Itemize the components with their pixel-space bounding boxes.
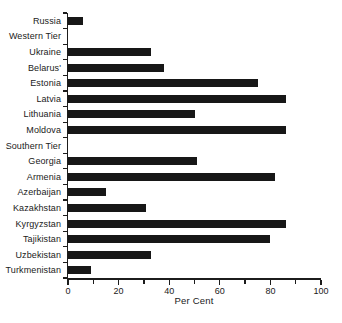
x-axis-minor-tick (244, 280, 245, 284)
y-axis-tick (63, 246, 67, 247)
category-label: Ukraine (29, 47, 61, 57)
category-label: Tajikistan (23, 234, 61, 244)
y-axis-tick (63, 106, 67, 107)
category-label: Belarus' (28, 63, 61, 73)
bar-kyrgyzstan (68, 220, 286, 228)
bar-russia (68, 17, 83, 25)
y-axis-tick (63, 44, 67, 45)
x-axis-major-tick (270, 280, 271, 285)
category-label: Moldova (26, 125, 61, 135)
chart-row: Western Tier (68, 29, 321, 45)
chart-row: Southern Tier (68, 138, 321, 154)
x-axis-major-tick (320, 280, 321, 285)
category-label: Kazakhstan (13, 203, 61, 213)
bar-chart-figure: RussiaWestern TierUkraineBelarus'Estonia… (0, 0, 342, 323)
bar-lithuania (68, 110, 195, 118)
chart-row: Estonia (68, 75, 321, 91)
category-label: Armenia (27, 172, 61, 182)
category-label: Georgia (28, 156, 61, 166)
y-axis-tick (63, 153, 67, 154)
chart-row: Armenia (68, 169, 321, 185)
x-axis-minor-tick (93, 280, 94, 284)
bar-armenia (68, 173, 275, 181)
y-axis-tick (63, 12, 67, 13)
x-axis-major-tick (219, 280, 220, 285)
bar-kazakhstan (68, 204, 146, 212)
chart-row: Belarus' (68, 60, 321, 76)
chart-row: Tajikistan (68, 231, 321, 247)
chart-row: Kyrgyzstan (68, 216, 321, 232)
category-label: Southern Tier (6, 141, 61, 151)
y-axis-tick (63, 28, 67, 29)
y-axis-tick (63, 215, 67, 216)
chart-rows: RussiaWestern TierUkraineBelarus'Estonia… (68, 13, 321, 278)
y-axis-tick (63, 137, 67, 138)
chart-row: Georgia (68, 153, 321, 169)
chart-row: Lithuania (68, 107, 321, 123)
chart-row: Moldova (68, 122, 321, 138)
y-axis-tick (63, 90, 67, 91)
y-axis-tick (63, 168, 67, 169)
chart-row: Ukraine (68, 44, 321, 60)
x-axis-minor-tick (194, 280, 195, 284)
y-axis-tick (63, 199, 67, 200)
y-axis-tick (63, 231, 67, 232)
chart-row: Kazakhstan (68, 200, 321, 216)
category-label: Estonia (30, 78, 61, 88)
chart-row: Uzbekistan (68, 247, 321, 263)
x-axis-minor-tick (143, 280, 144, 284)
y-axis-tick (63, 59, 67, 60)
bar-estonia (68, 79, 258, 87)
chart-row: Turkmenistan (68, 263, 321, 279)
bar-turkmenistan (68, 266, 91, 274)
x-axis-label: Per Cent (67, 295, 321, 306)
y-axis-tick (63, 277, 67, 278)
chart-row: Azerbaijan (68, 185, 321, 201)
chart-row: Russia (68, 13, 321, 29)
x-axis-major-tick (118, 280, 119, 285)
category-label: Lithuania (24, 109, 61, 119)
category-label: Western Tier (9, 31, 61, 41)
category-label: Uzbekistan (15, 250, 61, 260)
bar-belarus- (68, 64, 164, 72)
y-axis-tick (63, 184, 67, 185)
category-label: Kyrgyzstan (15, 219, 61, 229)
bar-tajikistan (68, 235, 270, 243)
bar-moldova (68, 126, 286, 134)
x-axis-major-tick (67, 280, 68, 285)
bar-latvia (68, 95, 286, 103)
bar-georgia (68, 157, 197, 165)
bar-azerbaijan (68, 188, 106, 196)
y-axis-tick (63, 262, 67, 263)
category-label: Russia (33, 16, 61, 26)
plot-area: RussiaWestern TierUkraineBelarus'Estonia… (67, 13, 321, 280)
x-axis-minor-tick (295, 280, 296, 284)
category-label: Azerbaijan (17, 187, 61, 197)
bar-uzbekistan (68, 251, 151, 259)
category-label: Latvia (36, 94, 61, 104)
category-label: Turkmenistan (6, 265, 61, 275)
bar-ukraine (68, 48, 151, 56)
x-axis-major-tick (169, 280, 170, 285)
chart-row: Latvia (68, 91, 321, 107)
y-axis-tick (63, 75, 67, 76)
y-axis-tick (63, 122, 67, 123)
